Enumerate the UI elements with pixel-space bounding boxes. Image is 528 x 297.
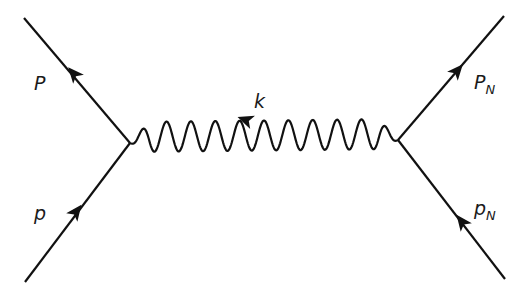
arrow-icon-top-left [63,63,84,84]
label-propagator-momentum: k [254,92,265,111]
label-bottom-right-momentum: pN [474,199,496,222]
arrow-icon-propagator [235,110,255,129]
photon-wavy-line [130,119,398,151]
label-bottom-right-sub: N [486,208,496,223]
label-top-left-momentum: P [34,74,45,93]
diagram-graphic [0,0,528,297]
label-bottom-left-momentum: p [34,204,46,223]
label-top-right-momentum: PN [474,73,495,96]
label-top-right-sub: N [485,82,495,97]
feynman-diagram: P p k PN pN [0,0,528,297]
label-bottom-right-main: p [474,197,486,219]
label-top-right-main: P [474,71,485,93]
